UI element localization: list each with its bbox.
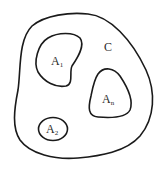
outer-region-c <box>15 13 153 158</box>
label-a1-sub: 1 <box>60 61 64 69</box>
region-diagram: C A1 An A2 <box>0 0 163 171</box>
label-a2: A2 <box>46 123 58 137</box>
label-a2-sub: 2 <box>55 129 59 137</box>
label-an-main: A <box>102 92 111 106</box>
label-c-text: C <box>104 40 112 54</box>
label-a1-main: A <box>51 54 60 68</box>
label-a2-main: A <box>46 122 55 136</box>
label-an: An <box>102 93 114 107</box>
label-c: C <box>104 41 112 53</box>
label-an-sub: n <box>111 99 115 107</box>
label-a1: A1 <box>51 55 63 69</box>
diagram-graphics <box>0 0 163 171</box>
